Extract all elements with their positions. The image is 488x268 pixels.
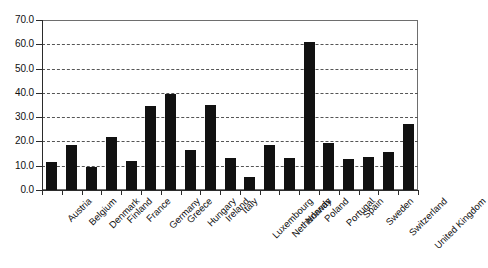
x-axis-category-label-text: Sweden bbox=[384, 196, 415, 227]
x-axis-tick bbox=[240, 190, 241, 195]
x-axis-category-labels: AustriaBelgiumDenmarkFinlandFranceGerman… bbox=[42, 196, 418, 268]
y-axis-tick-label: 50.0 bbox=[15, 64, 34, 74]
y-axis-tick-label: 70.0 bbox=[15, 15, 34, 25]
x-axis-tick bbox=[62, 190, 63, 195]
x-axis-tick bbox=[319, 190, 320, 195]
bar bbox=[86, 167, 97, 190]
y-axis-tick-label: 40.0 bbox=[15, 88, 34, 98]
bar bbox=[284, 158, 295, 190]
bar-series bbox=[42, 20, 418, 190]
x-axis-tick bbox=[220, 190, 221, 195]
bar bbox=[363, 157, 374, 191]
bar bbox=[403, 124, 414, 190]
x-axis-tick bbox=[121, 190, 122, 195]
bar bbox=[106, 137, 117, 190]
bar bbox=[145, 106, 156, 190]
x-axis-tick bbox=[101, 190, 102, 195]
x-axis-tick bbox=[359, 190, 360, 195]
bar bbox=[185, 150, 196, 190]
x-axis-tick bbox=[260, 190, 261, 195]
x-axis-tick bbox=[161, 190, 162, 195]
bar bbox=[66, 145, 77, 190]
y-axis-tick-label: 0.0 bbox=[20, 185, 34, 195]
x-axis-tick bbox=[82, 190, 83, 195]
x-axis-tick bbox=[42, 190, 43, 195]
x-axis-tick bbox=[339, 190, 340, 195]
bar bbox=[126, 161, 137, 190]
x-axis-tick bbox=[378, 190, 379, 195]
x-axis-tick bbox=[181, 190, 182, 195]
y-axis-tick-label: 60.0 bbox=[15, 39, 34, 49]
bar bbox=[244, 177, 255, 190]
x-axis-tick bbox=[299, 190, 300, 195]
bar bbox=[46, 162, 57, 190]
y-axis-tick-label: 10.0 bbox=[15, 161, 34, 171]
bar bbox=[205, 105, 216, 190]
bar bbox=[304, 42, 315, 190]
bar bbox=[383, 152, 394, 190]
x-axis-tick bbox=[398, 190, 399, 195]
x-axis-tick bbox=[279, 190, 280, 195]
x-axis-tick bbox=[200, 190, 201, 195]
bar bbox=[343, 159, 354, 190]
bar bbox=[225, 158, 236, 190]
y-axis-tick-label: 20.0 bbox=[15, 136, 34, 146]
y-axis-tick-labels: 0.010.020.030.040.050.060.070.0 bbox=[0, 20, 34, 190]
y-axis-tick-label: 30.0 bbox=[15, 112, 34, 122]
bar bbox=[264, 145, 275, 190]
bar bbox=[165, 94, 176, 190]
x-axis-category-label: Sweden bbox=[384, 196, 415, 227]
x-axis-tick bbox=[141, 190, 142, 195]
x-axis-tick bbox=[418, 190, 419, 195]
bar bbox=[323, 143, 334, 190]
